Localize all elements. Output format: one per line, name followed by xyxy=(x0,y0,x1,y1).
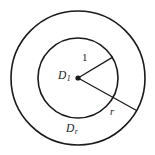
inner-circle-label-subscript: 1 xyxy=(67,74,71,83)
outer-circle-label: Dr xyxy=(66,123,78,136)
inner-circle-label: D1 xyxy=(58,70,71,83)
inner-radius-label: 1 xyxy=(82,52,88,63)
geometry-figure: D1 Dr 1 r xyxy=(0,0,155,155)
inner-circle-label-base: D xyxy=(58,69,66,81)
center-point-dot xyxy=(75,75,80,80)
outer-radius-label: r xyxy=(110,107,114,118)
outer-circle-label-subscript: r xyxy=(75,127,78,136)
outer-circle-label-base: D xyxy=(66,122,74,134)
